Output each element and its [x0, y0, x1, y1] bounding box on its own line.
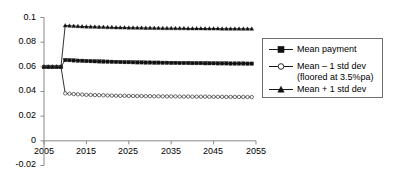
- legend-marker-filled-square-icon: [268, 43, 294, 56]
- legend-item-mean-payment: Mean payment: [263, 43, 384, 56]
- legend-marker-filled-triangle-icon: [268, 83, 294, 96]
- legend-sublabel-floored: (floored at 3.5%pa): [297, 72, 374, 83]
- chart-legend: Mean payment Mean – 1 std dev (floored a…: [262, 38, 383, 98]
- legend-label-mean-payment: Mean payment: [297, 44, 357, 55]
- chart-figure: 0.1 0.08 0.06 0.04 0.02 0 -0.02 2005 201…: [0, 0, 394, 187]
- legend-label-mean-plus-std: Mean + 1 std dev: [297, 84, 366, 95]
- legend-item-mean-plus-std: Mean + 1 std dev: [263, 83, 384, 96]
